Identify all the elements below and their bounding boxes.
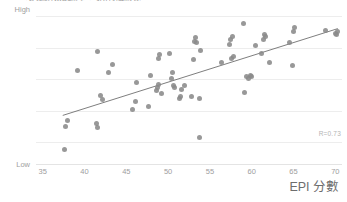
scatter-point	[172, 85, 177, 90]
scatter-point	[100, 97, 105, 102]
x-axis-tick-labels: 3540455055606570	[36, 168, 342, 180]
scatter-point	[335, 29, 340, 34]
y-axis-low-label: Low	[16, 161, 30, 169]
scatter-point	[169, 76, 174, 81]
scatter-point	[287, 40, 292, 45]
scatter-point	[189, 94, 194, 99]
gridline	[36, 16, 342, 17]
scatter-point	[65, 118, 70, 123]
scatter-point	[62, 147, 67, 152]
scatter-point	[230, 34, 235, 39]
scatter-point	[253, 43, 258, 48]
scatter-point	[170, 70, 175, 75]
scatter-point	[167, 51, 172, 56]
scatter-point	[133, 99, 138, 104]
x-axis-tick-label: 45	[122, 168, 130, 176]
scatter-point	[241, 21, 246, 26]
scatter-point	[227, 42, 232, 47]
scatter-point	[219, 60, 224, 65]
gridline	[36, 111, 342, 112]
scatter-point	[197, 96, 202, 101]
scatter-point	[146, 104, 151, 109]
x-axis-title: EPI 分數	[289, 181, 339, 195]
scatter-point	[259, 51, 264, 56]
scatter-point	[106, 70, 111, 75]
scatter-point	[95, 49, 100, 54]
scatter-point	[159, 91, 164, 96]
trendline	[63, 29, 338, 116]
scatter-point	[157, 52, 162, 57]
scatter-point	[292, 25, 297, 30]
x-axis-baseline	[36, 164, 342, 165]
x-axis-tick-label: 35	[39, 168, 47, 176]
x-axis-tick-label: 65	[289, 168, 297, 176]
gridline	[36, 48, 342, 49]
scatter-point	[231, 54, 236, 59]
scatter-point	[242, 90, 247, 95]
x-axis-tick-label: 60	[248, 168, 256, 176]
scatter-point	[178, 94, 183, 99]
scatter-point	[110, 62, 115, 67]
scatter-point	[291, 29, 296, 34]
scatter-point	[95, 125, 100, 130]
plot-area: High Low	[36, 10, 342, 165]
scatter-point	[191, 57, 196, 62]
scatter-point	[75, 68, 80, 73]
scatter-point	[290, 63, 295, 68]
correlation-annotation: R=0.73	[319, 131, 341, 138]
chart-title: 環境績效指數與人均所得之關係	[26, 0, 141, 1]
x-axis-tick-label: 40	[80, 168, 88, 176]
scatter-point	[263, 34, 268, 39]
scatter-point	[182, 83, 187, 88]
x-axis-tick-label: 55	[206, 168, 214, 176]
scatter-point	[194, 40, 199, 45]
y-axis-high-label: High	[15, 6, 30, 14]
scatter-point	[197, 135, 202, 140]
scatter-point	[134, 80, 139, 85]
scatter-point	[267, 60, 272, 65]
x-axis-tick-label: 50	[164, 168, 172, 176]
scatter-point	[198, 48, 203, 53]
scatter-point	[323, 28, 328, 33]
gridline	[36, 142, 342, 143]
scatter-point	[148, 73, 153, 78]
x-axis-tick-label: 70	[331, 168, 339, 176]
gridline	[36, 79, 342, 80]
scatter-chart-figure: 環境績效指數與人均所得之關係 High Low 3540455055606570…	[0, 0, 347, 202]
scatter-point	[156, 82, 161, 87]
scatter-point	[63, 124, 68, 129]
